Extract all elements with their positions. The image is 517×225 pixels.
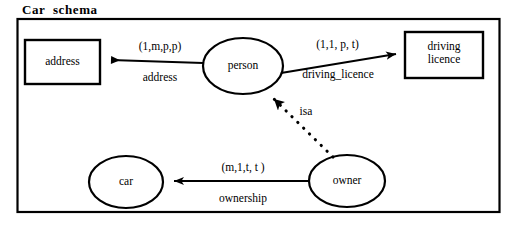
edge-cardinality-ownership: (m,1,t, t )	[188, 161, 298, 173]
edge-name-ownership: ownership	[188, 192, 298, 204]
edge-name-isa: isa	[286, 105, 326, 117]
edge-cardinality-address: (1,m,p,p)	[110, 40, 210, 52]
edge-name-address: address	[110, 71, 210, 83]
edge-name-driving-licence: driving_licence	[283, 68, 393, 80]
entity-label-owner: owner	[309, 174, 385, 187]
edge-line-address	[111, 60, 203, 63]
entity-label-car: car	[89, 175, 163, 188]
entity-label-address: address	[25, 55, 100, 68]
schema-diagram-canvas: Car schema	[0, 0, 517, 225]
edge-cardinality-driving-licence: (1,1, p, t)	[285, 38, 390, 50]
entity-label-person: person	[203, 59, 283, 72]
entity-label-driving-licence: driving licence	[405, 40, 483, 66]
